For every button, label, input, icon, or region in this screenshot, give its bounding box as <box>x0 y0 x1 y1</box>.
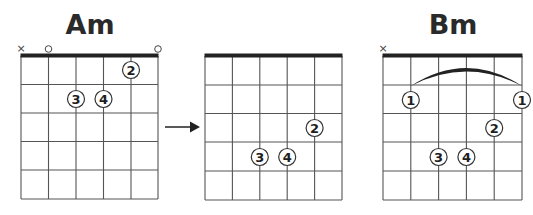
svg-text:4: 4 <box>99 92 108 107</box>
finger-dot: 3 <box>251 149 268 166</box>
svg-text:2: 2 <box>310 121 319 136</box>
svg-text:3: 3 <box>434 150 443 165</box>
svg-text:3: 3 <box>71 92 80 107</box>
nut <box>21 54 159 58</box>
svg-text:1: 1 <box>406 93 415 108</box>
mute-string-marker: × <box>16 42 25 55</box>
finger-dot: 4 <box>279 149 296 166</box>
svg-text:3: 3 <box>255 150 264 165</box>
svg-text:2: 2 <box>126 63 135 78</box>
open-string-marker <box>45 46 52 53</box>
finger-dot: 1 <box>514 92 531 109</box>
finger-dot: 1 <box>402 92 419 109</box>
finger-dot: 4 <box>95 91 112 108</box>
finger-dot: 4 <box>458 149 475 166</box>
open-string-marker <box>155 46 162 53</box>
finger-dot: 2 <box>486 120 503 137</box>
svg-text:4: 4 <box>462 150 471 165</box>
chord-transition: 2 3 4 <box>205 54 343 201</box>
finger-dot: 2 <box>123 62 140 79</box>
nut <box>205 54 343 58</box>
finger-dot: 3 <box>68 91 85 108</box>
fretboard-grid <box>21 56 158 199</box>
chord-title-bm: Bm <box>429 9 478 40</box>
finger-dot: 2 <box>306 120 323 137</box>
chord-title-am: Am <box>65 9 114 40</box>
chord-am: Am × 2 3 4 <box>16 9 161 199</box>
svg-text:2: 2 <box>490 121 499 136</box>
chord-diagram-canvas: Am × 2 3 4 <box>0 0 533 215</box>
finger-dot: 3 <box>430 149 447 166</box>
svg-text:1: 1 <box>517 93 526 108</box>
nut <box>383 54 523 58</box>
arrow-right-icon <box>165 122 200 133</box>
mute-string-marker: × <box>378 42 387 55</box>
chord-bm: Bm × 1 1 2 <box>378 9 530 200</box>
svg-text:4: 4 <box>283 150 292 165</box>
